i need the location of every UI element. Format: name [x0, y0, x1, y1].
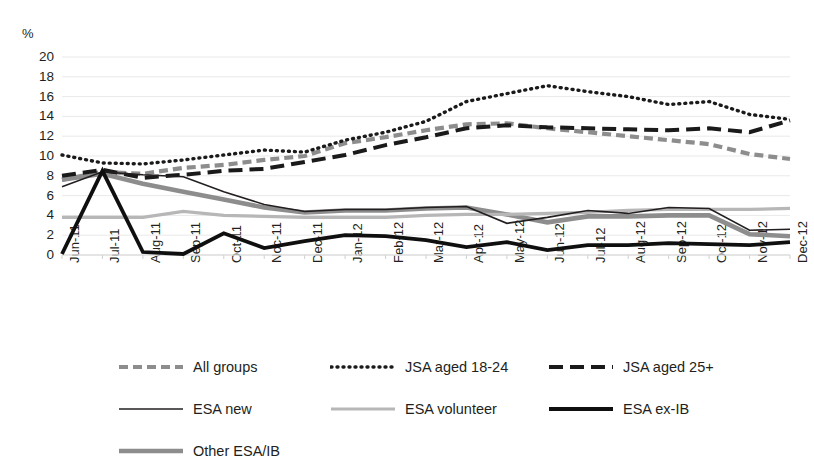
legend-swatch-jsa-aged-18-24 [330, 360, 396, 374]
legend-swatch-esa-volunteer [330, 402, 396, 416]
legend-swatch-other-esa-ib [118, 444, 184, 458]
series-line-esa-new [62, 172, 790, 230]
x-axis-ticks [62, 255, 790, 259]
legend-item-all-groups[interactable]: All groups [118, 350, 257, 384]
legend-row: Other ESA/IB [0, 434, 814, 468]
legend-item-esa-volunteer[interactable]: ESA volunteer [330, 392, 497, 426]
legend-swatch-esa-new [118, 402, 184, 416]
chart-legend: All groupsJSA aged 18-24JSA aged 25+ESA … [0, 350, 814, 470]
series-line-jsa-aged-18-24 [62, 86, 790, 164]
legend-item-esa-ex-ib[interactable]: ESA ex-IB [548, 392, 689, 426]
legend-marker-all-groups [118, 360, 184, 374]
legend-marker-jsa-aged-18-24 [330, 360, 396, 374]
legend-item-jsa-aged-25[interactable]: JSA aged 25+ [548, 350, 714, 384]
legend-marker-esa-volunteer [330, 402, 396, 416]
gridlines [62, 57, 790, 255]
legend-item-other-esa-ib[interactable]: Other ESA/IB [118, 434, 280, 468]
legend-item-jsa-aged-18-24[interactable]: JSA aged 18-24 [330, 350, 508, 384]
legend-marker-esa-ex-ib [548, 402, 614, 416]
series-line-all-groups [62, 123, 790, 179]
legend-marker-jsa-aged-25 [548, 360, 614, 374]
legend-label-esa-new: ESA new [193, 401, 252, 417]
legend-swatch-all-groups [118, 360, 184, 374]
legend-marker-other-esa-ib [118, 444, 184, 458]
legend-label-esa-volunteer: ESA volunteer [405, 401, 497, 417]
legend-label-jsa-aged-18-24: JSA aged 18-24 [405, 359, 508, 375]
legend-row: All groupsJSA aged 18-24JSA aged 25+ [0, 350, 814, 384]
legend-swatch-esa-ex-ib [548, 402, 614, 416]
chart-figure: % 20181614121086420 Jun-11Jul-11Aug-11Se… [0, 0, 814, 474]
legend-label-other-esa-ib: Other ESA/IB [193, 443, 280, 459]
legend-label-esa-ex-ib: ESA ex-IB [623, 401, 689, 417]
legend-row: ESA newESA volunteerESA ex-IB [0, 392, 814, 426]
legend-label-jsa-aged-25: JSA aged 25+ [623, 359, 714, 375]
legend-item-esa-new[interactable]: ESA new [118, 392, 252, 426]
legend-swatch-jsa-aged-25 [548, 360, 614, 374]
legend-label-all-groups: All groups [193, 359, 257, 375]
series-line-other-esa-ib [62, 174, 790, 236]
legend-marker-esa-new [118, 402, 184, 416]
